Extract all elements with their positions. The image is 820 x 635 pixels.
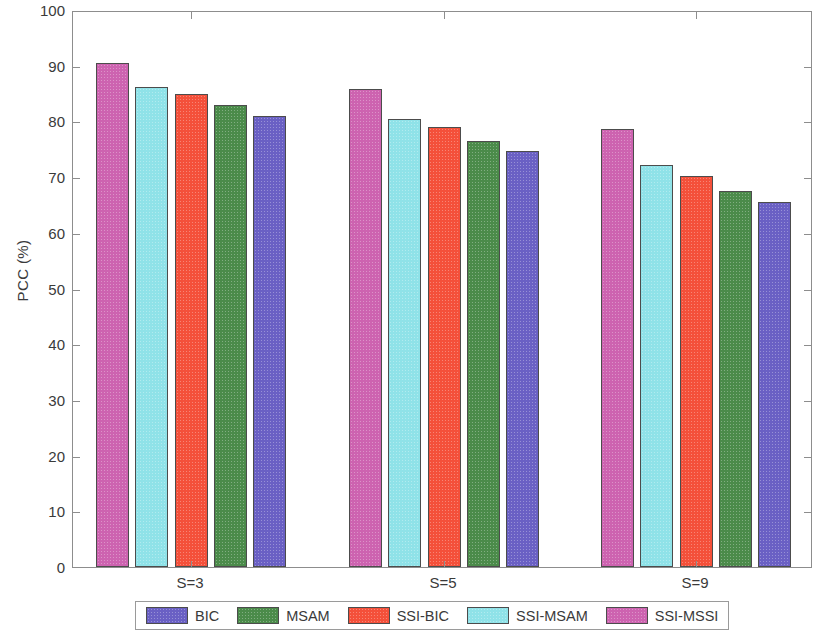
- legend-label: SSI-MSSI: [655, 608, 719, 624]
- y-tick-mark-right: [804, 122, 811, 123]
- x-group-label: S=5: [383, 574, 503, 591]
- bar: [96, 63, 129, 567]
- legend-label: BIC: [195, 608, 219, 624]
- y-tick-mark-right: [804, 290, 811, 291]
- y-tick-mark: [73, 178, 80, 179]
- bar-group: [349, 12, 539, 567]
- y-tick-mark: [73, 345, 80, 346]
- bar: [349, 89, 382, 567]
- bar: [640, 165, 673, 567]
- y-tick-mark: [73, 512, 80, 513]
- y-tick-label: 50: [48, 281, 65, 298]
- bar: [680, 176, 713, 567]
- legend-label: SSI-MSAM: [516, 608, 588, 624]
- y-tick-mark-right: [804, 401, 811, 402]
- y-tick-mark-right: [804, 512, 811, 513]
- bar: [428, 127, 461, 567]
- y-tick-label: 20: [48, 448, 65, 465]
- x-tick-mark: [444, 561, 445, 568]
- x-group-label: S=9: [635, 574, 755, 591]
- y-tick-mark: [73, 290, 80, 291]
- y-tick-mark: [73, 457, 80, 458]
- legend-item[interactable]: SSI-BIC: [348, 607, 449, 624]
- bar-group: [96, 12, 286, 567]
- bar: [253, 116, 286, 567]
- y-tick-mark: [73, 122, 80, 123]
- bar-group: [601, 12, 791, 567]
- y-tick-label: 0: [57, 559, 65, 576]
- legend-item[interactable]: SSI-MSSI: [606, 607, 719, 624]
- y-tick-mark-right: [804, 178, 811, 179]
- y-tick-mark-right: [804, 67, 811, 68]
- y-tick-label: 100: [40, 2, 65, 19]
- y-tick-mark-right: [804, 234, 811, 235]
- y-tick-label: 40: [48, 336, 65, 353]
- x-tick-mark-top: [191, 12, 192, 19]
- bar-group-bars: [601, 12, 791, 567]
- legend-item[interactable]: BIC: [146, 607, 219, 624]
- legend-swatch: [467, 607, 509, 624]
- legend-label: MSAM: [286, 608, 330, 624]
- y-tick-mark: [73, 234, 80, 235]
- legend-item[interactable]: SSI-MSAM: [467, 607, 588, 624]
- y-tick-label: 60: [48, 225, 65, 242]
- y-tick-mark-right: [804, 457, 811, 458]
- chart-legend: BICMSAMSSI-BICSSI-MSAMSSI-MSSI: [135, 601, 729, 630]
- y-tick-label: 30: [48, 392, 65, 409]
- legend-label: SSI-BIC: [397, 608, 449, 624]
- bar: [719, 191, 752, 567]
- legend-swatch: [348, 607, 390, 624]
- x-group-label: S=3: [130, 574, 250, 591]
- bar-chart-figure: PCC (%) 0102030405060708090100 S=3S=5S=9…: [0, 0, 820, 635]
- legend-item[interactable]: MSAM: [237, 607, 330, 624]
- y-tick-mark: [73, 67, 80, 68]
- x-tick-mark-top: [696, 12, 697, 19]
- legend-swatch: [606, 607, 648, 624]
- y-axis-label: PCC (%): [14, 211, 31, 331]
- bar: [388, 119, 421, 567]
- y-tick-mark-right: [804, 345, 811, 346]
- plot-area: 0102030405060708090100: [72, 11, 812, 568]
- x-tick-mark: [696, 561, 697, 568]
- bar: [175, 94, 208, 567]
- x-tick-mark-top: [444, 12, 445, 19]
- y-tick-label: 70: [48, 169, 65, 186]
- bar: [214, 105, 247, 567]
- bar: [135, 87, 168, 567]
- bar-group-bars: [349, 12, 539, 567]
- bar-group-bars: [96, 12, 286, 567]
- y-tick-label: 80: [48, 113, 65, 130]
- legend-swatch: [146, 607, 188, 624]
- bar: [758, 202, 791, 567]
- y-tick-label: 90: [48, 58, 65, 75]
- bar: [506, 151, 539, 567]
- bar: [601, 129, 634, 567]
- bar: [467, 141, 500, 567]
- legend-swatch: [237, 607, 279, 624]
- x-tick-mark: [191, 561, 192, 568]
- y-tick-label: 10: [48, 503, 65, 520]
- y-tick-mark: [73, 401, 80, 402]
